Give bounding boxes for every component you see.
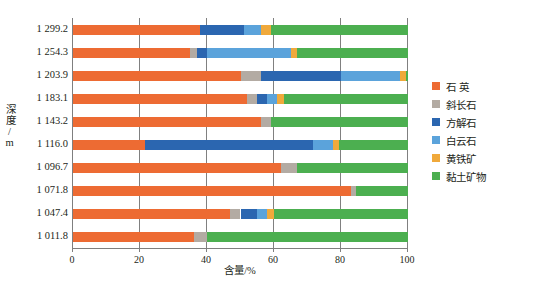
bar-segment: [284, 94, 408, 104]
bar-segment: [200, 25, 244, 35]
bar-segment: [271, 117, 408, 127]
bar-row: [73, 25, 408, 35]
bar-segment: [356, 186, 408, 196]
bar-segment: [297, 163, 408, 173]
bar-segment: [73, 94, 247, 104]
bar-segment: [207, 232, 408, 242]
bar-segment: [261, 117, 271, 127]
y-axis-tick-label: 1 011.8: [37, 230, 68, 241]
bar-segment: [281, 163, 298, 173]
bar-segment: [267, 94, 277, 104]
bar-segment: [73, 48, 190, 58]
legend-item[interactable]: 白云石: [432, 132, 532, 148]
legend-swatch-icon: [432, 172, 440, 180]
bar-segment: [73, 71, 241, 81]
legend: 石 英斜长石方解石白云石黄铁矿黏土矿物: [432, 78, 532, 186]
bar-row: [73, 117, 408, 127]
legend-label: 石 英: [446, 79, 469, 94]
bar-row: [73, 209, 408, 219]
bar-row: [73, 163, 408, 173]
bar-segment: [267, 209, 274, 219]
bar-series-container: [73, 18, 408, 248]
y-axis-tick-label: 1 143.2: [37, 115, 69, 126]
bar-segment: [241, 71, 261, 81]
bar-row: [73, 71, 408, 81]
bar-row: [73, 140, 408, 150]
legend-item[interactable]: 方解石: [432, 114, 532, 130]
y-axis-tick-label: 1 071.8: [37, 184, 69, 195]
bar-segment: [341, 71, 400, 81]
x-axis-tick: [340, 248, 341, 252]
legend-label: 白云石: [446, 133, 476, 148]
legend-label: 方解石: [446, 115, 476, 130]
bar-segment: [261, 25, 271, 35]
x-axis-tick: [139, 248, 140, 252]
bar-segment: [241, 209, 258, 219]
bar-segment: [197, 48, 207, 58]
legend-item[interactable]: 斜长石: [432, 96, 532, 112]
legend-label: 黄铁矿: [446, 151, 476, 166]
bar-segment: [73, 25, 200, 35]
bar-segment: [230, 209, 240, 219]
bar-segment: [274, 209, 408, 219]
x-axis-tick: [273, 248, 274, 252]
legend-item[interactable]: 黏土矿物: [432, 168, 532, 184]
bar-segment: [73, 117, 261, 127]
y-axis-tick-label: 1 254.3: [37, 46, 69, 57]
legend-swatch-icon: [432, 82, 440, 90]
bar-segment: [190, 48, 197, 58]
bar-segment: [406, 71, 408, 81]
bar-segment: [73, 232, 194, 242]
bar-row: [73, 186, 408, 196]
bar-segment: [313, 140, 333, 150]
bar-segment: [247, 94, 257, 104]
bar-segment: [261, 71, 341, 81]
y-axis-tick-labels: 1 299.21 254.31 203.91 183.11 143.21 116…: [0, 18, 68, 248]
legend-label: 黏土矿物: [446, 169, 486, 184]
y-axis-tick-label: 1 203.9: [37, 69, 69, 80]
bar-segment: [333, 140, 340, 150]
y-axis-tick-label: 1 183.1: [37, 92, 69, 103]
bar-segment: [271, 25, 408, 35]
bar-segment: [257, 94, 267, 104]
bar-segment: [73, 140, 145, 150]
bar-segment: [339, 140, 408, 150]
y-axis-tick-label: 1 116.0: [37, 138, 68, 149]
x-axis-tick: [407, 248, 408, 252]
bar-segment: [73, 186, 351, 196]
bar-segment: [194, 232, 207, 242]
x-axis-tick: [72, 248, 73, 252]
legend-item[interactable]: 黄铁矿: [432, 150, 532, 166]
bar-segment: [257, 209, 267, 219]
bar-segment: [207, 48, 291, 58]
bar-segment: [73, 209, 230, 219]
bar-segment: [400, 71, 407, 81]
y-axis-tick-label: 1 299.2: [37, 23, 69, 34]
legend-swatch-icon: [432, 136, 440, 144]
plot-area: 020406080100: [72, 18, 407, 248]
bar-segment: [277, 94, 284, 104]
legend-swatch-icon: [432, 118, 440, 126]
x-axis-line: [72, 248, 408, 249]
bar-segment: [145, 140, 313, 150]
bar-segment: [73, 163, 281, 173]
bar-row: [73, 48, 408, 58]
x-axis-tick: [206, 248, 207, 252]
y-axis-tick-label: 1 047.4: [37, 207, 69, 218]
legend-item[interactable]: 石 英: [432, 78, 532, 94]
legend-swatch-icon: [432, 154, 440, 162]
legend-label: 斜长石: [446, 97, 476, 112]
bar-segment: [291, 48, 298, 58]
legend-swatch-icon: [432, 100, 440, 108]
chart-figure: 深度/m 1 299.21 254.31 203.91 183.11 143.2…: [0, 0, 536, 296]
bar-row: [73, 94, 408, 104]
y-axis-tick-label: 1 096.7: [37, 161, 69, 172]
x-axis-title: 含量/%: [0, 262, 480, 277]
bar-segment: [244, 25, 261, 35]
bar-row: [73, 232, 408, 242]
bar-segment: [297, 48, 408, 58]
